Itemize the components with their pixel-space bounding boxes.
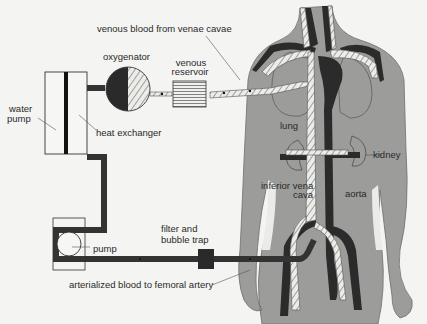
bypass-diagram: [0, 0, 427, 324]
label-oxygenator: oxygenator: [103, 52, 150, 62]
label-inferior-vena-cava-2: cava: [293, 190, 313, 200]
label-filter-2: bubble trap: [161, 235, 209, 245]
oxygenator: [106, 67, 150, 111]
label-lung: lung: [280, 121, 298, 131]
filter-bubble-trap: [198, 249, 214, 269]
label-venous-reservoir-2: reservoir: [168, 67, 212, 77]
label-pump: pump: [93, 244, 117, 254]
water-pump-box: [45, 72, 87, 154]
pump: [53, 218, 85, 270]
label-water-pump-2: pump: [7, 114, 31, 124]
venous-reservoir: [173, 81, 206, 107]
tube-hx-oxygenator: [87, 85, 105, 91]
label-kidney: kidney: [373, 150, 400, 160]
label-venous-blood: venous blood from venae cavae: [97, 24, 232, 34]
label-aorta: aorta: [345, 189, 367, 199]
label-arterialized-blood: arterialized blood to femoral artery: [69, 280, 213, 290]
label-filter-1: filter and: [161, 224, 197, 234]
label-heat-exchanger: heat exchanger: [96, 128, 162, 138]
